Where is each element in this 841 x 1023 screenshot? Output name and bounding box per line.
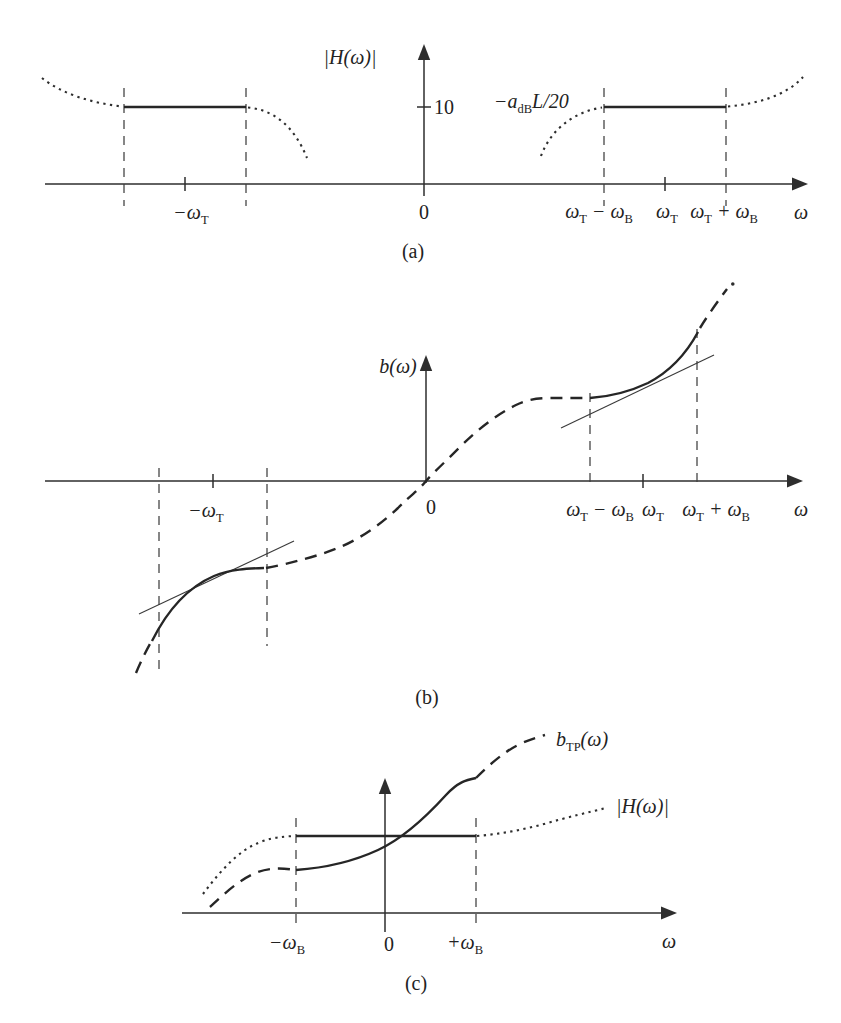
- sub-b: B: [475, 943, 483, 957]
- plot-b-neg-omega-t-label: −ωT: [188, 500, 223, 524]
- sub-t: T: [656, 510, 664, 524]
- omega-arg: (ω): [581, 728, 608, 750]
- omega: ω: [642, 498, 656, 520]
- plot-a-attenuation-sub: dB: [518, 102, 533, 116]
- plus-omega: + ω: [712, 200, 750, 222]
- plot-a-omega-t-minus-b-label: ωT − ωB: [565, 201, 633, 225]
- omega: ω: [565, 200, 579, 222]
- neg-omega: −ω: [188, 499, 216, 521]
- plot-c-magnitude-curve-label: |H(ω)|: [616, 796, 669, 816]
- omega: ω: [682, 498, 696, 520]
- omega: ω: [690, 200, 704, 222]
- plot-b-phase-solid-left: [152, 568, 264, 641]
- sub-t: T: [201, 213, 209, 227]
- plot-a-caption: (a): [402, 241, 424, 261]
- plot-a-level-tick-label: 10: [434, 97, 454, 117]
- sub-b: B: [297, 943, 305, 957]
- sub-b: B: [625, 212, 633, 226]
- plot-a-attenuation-lead: −a: [494, 90, 518, 112]
- plot-b-phase-dashed-mid: [266, 398, 589, 568]
- plot-b-y-axis-arrow: [420, 355, 432, 371]
- sub-t: T: [670, 212, 678, 226]
- plot-a-omega-axis-label: ω: [794, 202, 808, 222]
- sub-t: T: [580, 510, 588, 524]
- plot-c-x-axis-arrow: [661, 907, 677, 920]
- plot-b-omega-t-label: ωT: [642, 499, 664, 523]
- omega: ω: [656, 200, 670, 222]
- sub-tp: TP: [566, 740, 581, 754]
- minus-omega: − ω: [587, 200, 625, 222]
- plot-c-magnitude-dotted-left: [203, 836, 295, 894]
- plot-c-magnitude-dotted-right: [477, 808, 606, 836]
- plot-b-phase-end-dot: [731, 282, 735, 286]
- plus-omega: + ω: [704, 498, 742, 520]
- plot-a: [42, 44, 808, 206]
- plot-c-phase-dashed-left: [210, 869, 295, 907]
- plot-c-neg-omega-b-label: −ωB: [269, 932, 305, 956]
- figure-page: |H(ω)| 10 −adBL/20 0 −ωT ωT − ωB ωT ωT +…: [0, 0, 841, 1023]
- plot-b-caption: (b): [415, 687, 438, 707]
- plot-b: [45, 282, 803, 673]
- sub-t: T: [579, 212, 587, 226]
- plot-b-omega-axis-label: ω: [794, 499, 808, 519]
- plot-a-y-axis-arrow: [418, 44, 430, 60]
- neg-omega: −ω: [269, 931, 297, 953]
- plot-b-omega-t-plus-b-label: ωT + ωB: [682, 499, 750, 523]
- sub-t: T: [216, 511, 224, 525]
- plot-a-attenuation-label: −adBL/20: [494, 91, 569, 115]
- plot-b-origin-label: 0: [426, 497, 436, 517]
- sub-b: B: [742, 510, 750, 524]
- sub-b: B: [750, 212, 758, 226]
- b-symbol: b: [556, 728, 566, 750]
- plot-a-omega-t-label: ωT: [656, 201, 678, 225]
- plot-b-phase-dashed-tail-bottom: [136, 642, 151, 673]
- plot-a-origin-label: 0: [419, 202, 429, 222]
- plot-a-attenuation-tail: L/20: [532, 90, 569, 112]
- plot-b-tangent-right: [561, 355, 714, 428]
- plot-a-x-axis-arrow: [792, 178, 808, 191]
- plot-a-dotted-curve-right-outer: [728, 77, 803, 107]
- plot-c-phase-dashed-right: [476, 735, 545, 778]
- plot-b-tangent-left: [139, 541, 294, 614]
- plot-c-caption: (c): [405, 973, 427, 993]
- minus-omega: − ω: [588, 498, 626, 520]
- omega: ω: [566, 498, 580, 520]
- neg-omega: −ω: [173, 201, 201, 223]
- plot-a-dotted-curve-left-outer: [42, 78, 122, 107]
- plot-c: [182, 735, 677, 932]
- plus-omega: +ω: [447, 931, 475, 953]
- plot-a-dotted-curve-left-inner: [248, 108, 307, 159]
- plot-b-x-axis-arrow: [787, 475, 803, 488]
- plot-a-neg-omega-t-label: −ωT: [173, 202, 208, 226]
- plot-c-pos-omega-b-label: +ωB: [447, 932, 483, 956]
- plot-c-omega-axis-label: ω: [662, 931, 676, 951]
- sub-b: B: [626, 510, 634, 524]
- sub-t: T: [704, 212, 712, 226]
- sub-t: T: [696, 510, 704, 524]
- plot-b-omega-t-minus-b-label: ωT − ωB: [566, 499, 634, 523]
- plot-c-origin-label: 0: [384, 934, 394, 954]
- plot-c-y-axis-arrow: [379, 778, 391, 794]
- plot-a-omega-t-plus-b-label: ωT + ωB: [690, 201, 758, 225]
- plot-c-phase-curve-label: bTP(ω): [556, 729, 608, 753]
- plot-b-phase-dashed-tail-top: [700, 289, 727, 328]
- plot-a-y-axis-label: |H(ω)|: [324, 47, 377, 67]
- plot-b-y-axis-label: b(ω): [379, 356, 416, 376]
